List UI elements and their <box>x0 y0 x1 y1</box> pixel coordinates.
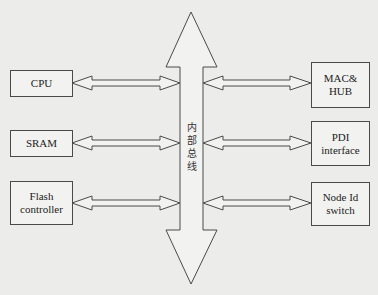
sram-label: SRAM <box>26 137 57 150</box>
connector-flash-bus <box>72 196 180 210</box>
flash-controller-label: Flash controller <box>20 190 63 216</box>
sram-box: SRAM <box>10 130 73 157</box>
flash-controller-box: Flash controller <box>10 181 73 225</box>
connector-cpu-bus <box>72 76 180 90</box>
pdi-interface-label: PDI interface <box>321 131 359 157</box>
block-diagram: 内 部 总 线 CPU SRAM Flash controller MAC& H… <box>0 0 378 295</box>
connector-bus-mac-hub <box>203 76 311 90</box>
mac-hub-label: MAC& HUB <box>324 72 358 98</box>
connector-bus-node-id <box>203 196 311 210</box>
cpu-box: CPU <box>10 70 73 97</box>
pdi-interface-box: PDI interface <box>311 121 370 166</box>
node-id-switch-box: Node Id switch <box>311 182 370 226</box>
cpu-label: CPU <box>31 77 52 90</box>
internal-bus-label: 内 部 总 线 <box>185 121 199 173</box>
node-id-switch-label: Node Id switch <box>323 191 359 217</box>
mac-hub-box: MAC& HUB <box>311 62 370 108</box>
connector-bus-pdi <box>203 136 311 150</box>
connector-sram-bus <box>72 136 180 150</box>
